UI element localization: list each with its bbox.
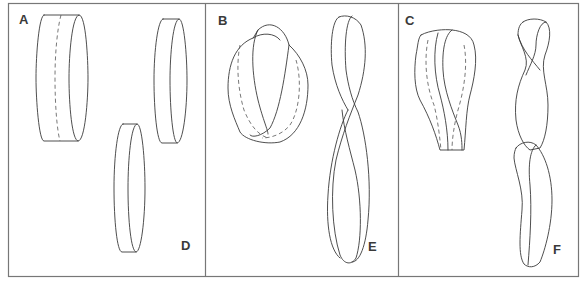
twisted-strip-c [415,30,476,150]
moebius-strip-figure: A D B E C F [0,0,585,282]
panel-label-d: D [181,239,190,252]
long-twisted-band-e [328,16,370,263]
panel-label-e: E [368,240,377,253]
linked-twisted-bands-f [514,19,552,267]
panel-label-c: C [405,14,414,27]
panel-label-f: F [553,243,561,256]
moebius-strip-b [228,25,308,143]
narrow-band-lower [114,124,145,252]
cylinder-band-a [36,15,88,141]
panel-label-b: B [218,14,227,27]
figure-drawing [0,0,585,282]
panel-frames [9,4,579,277]
panel-label-a: A [19,13,28,26]
narrow-band-upper [154,19,187,143]
